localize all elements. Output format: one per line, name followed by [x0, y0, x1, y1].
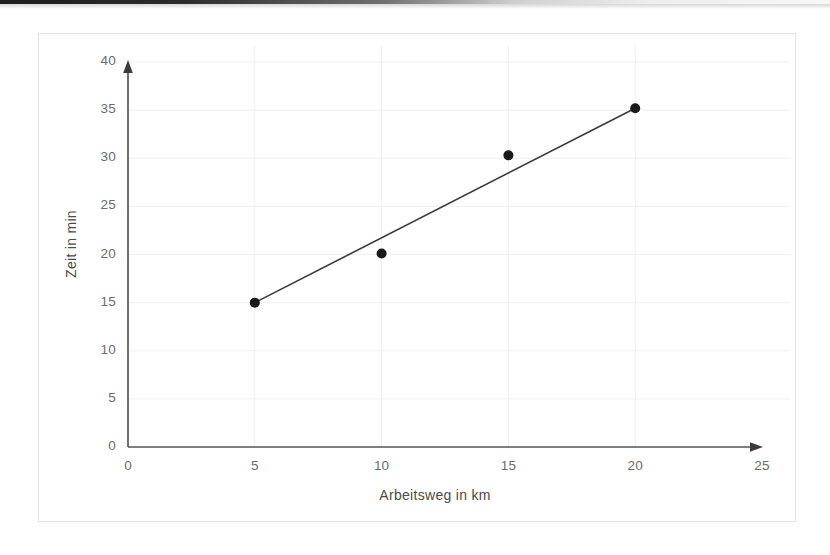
- y-axis-title: Zeit in min: [63, 184, 79, 304]
- scan-edge-gradient: [0, 4, 830, 9]
- x-axis-title: Arbeitsweg in km: [325, 487, 545, 503]
- chart-frame: [38, 33, 796, 522]
